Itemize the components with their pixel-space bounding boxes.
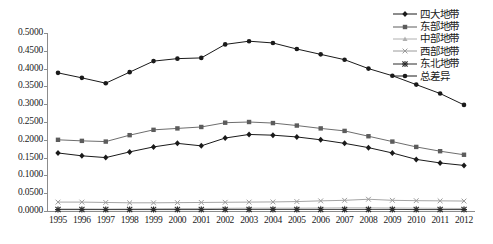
legend-label: 东部地带 (418, 21, 459, 32)
data-point-marker-circle (342, 57, 347, 62)
data-point-marker-diamond (103, 155, 108, 161)
data-point-marker-diamond (294, 134, 299, 140)
data-point-marker-star (342, 206, 348, 212)
legend-item-0[interactable]: 四大地带 (392, 8, 493, 20)
y-axis-tick-label: 0.2500 (18, 117, 43, 127)
y-axis-tick-mark (44, 211, 47, 212)
data-point-marker-diamond (246, 131, 251, 137)
data-point-marker-diamond (222, 135, 227, 141)
legend-item-1[interactable]: 东部地带 (392, 20, 493, 32)
data-point-marker-square (403, 24, 407, 28)
data-point-marker-square (462, 153, 466, 157)
legend-label: 西部地带 (418, 46, 459, 57)
data-point-marker-diamond (318, 137, 323, 143)
legend: 四大地带东部地带中部地带西部地带东北地带总差异 (392, 8, 493, 82)
data-point-marker-diamond (151, 144, 156, 150)
data-point-marker-diamond (199, 143, 204, 149)
data-point-marker-diamond (175, 140, 180, 146)
data-point-marker-square (151, 128, 155, 132)
data-point-marker-square (223, 121, 227, 125)
data-point-marker-star (318, 206, 324, 212)
x-axis-tick-label: 2000 (169, 215, 187, 225)
data-point-marker-circle (366, 66, 371, 71)
data-point-marker-diamond (461, 162, 466, 168)
data-point-marker-circle (175, 56, 180, 61)
data-point-marker-star (127, 207, 133, 213)
x-axis-tick-label: 1997 (97, 215, 115, 225)
data-point-marker-square (127, 133, 131, 137)
data-point-marker-star (437, 207, 443, 213)
data-point-marker-square (438, 149, 442, 153)
y-axis-tick-label: 0.3500 (18, 82, 43, 92)
x-axis-tick-label: 1998 (121, 215, 139, 225)
series-0 (55, 131, 466, 168)
data-point-marker-circle (414, 82, 419, 87)
data-point-marker-star (270, 206, 276, 212)
data-point-marker-diamond (79, 153, 84, 159)
data-point-marker-square (366, 134, 370, 138)
legend-label: 中部地带 (418, 33, 459, 44)
data-point-marker-star (246, 206, 252, 212)
legend-item-3[interactable]: 西部地带 (392, 45, 493, 57)
x-axis-tick-label: 2006 (312, 215, 330, 225)
x-axis-tick-label: 2008 (360, 215, 378, 225)
y-axis-tick-label: 0.0500 (18, 188, 43, 198)
x-axis-tick-label: 2010 (407, 215, 425, 225)
legend-item-4[interactable]: 东北地带 (392, 58, 493, 70)
y-axis-tick-label: 0.1000 (18, 171, 43, 181)
data-point-marker-square (342, 129, 346, 133)
data-point-marker-star (413, 207, 419, 213)
data-point-marker-square (199, 125, 203, 129)
data-point-marker-diamond (127, 149, 132, 155)
legend-marker-cross-icon (392, 45, 418, 57)
y-axis-tick-label: 0.5000 (18, 28, 43, 38)
data-point-marker-circle (151, 59, 156, 64)
x-axis-tick-label: 2012 (455, 215, 473, 225)
data-point-marker-circle (403, 74, 408, 79)
data-point-marker-square (247, 120, 251, 124)
data-point-marker-circle (247, 39, 252, 44)
data-point-marker-star (365, 206, 371, 212)
data-point-marker-star (461, 207, 467, 213)
data-point-marker-square (80, 139, 84, 143)
x-axis-tick-label: 2003 (240, 215, 258, 225)
data-point-marker-circle (80, 76, 85, 81)
data-point-marker-diamond (55, 150, 60, 156)
data-point-marker-diamond (414, 156, 419, 162)
x-axis-tick-label: 2002 (216, 215, 234, 225)
legend-label: 东北地带 (418, 58, 459, 69)
data-point-marker-circle (462, 103, 467, 108)
data-point-marker-star (79, 207, 85, 213)
data-point-marker-square (414, 145, 418, 149)
legend-item-2[interactable]: 中部地带 (392, 33, 493, 45)
legend-label: 四大地带 (418, 9, 459, 20)
data-point-marker-diamond (390, 150, 395, 156)
x-axis-tick-label: 1999 (145, 215, 163, 225)
data-point-marker-star (103, 207, 109, 213)
data-point-marker-circle (438, 91, 443, 96)
y-axis-tick-label: 0.4500 (18, 46, 43, 56)
data-point-marker-star (294, 206, 300, 212)
data-point-marker-circle (103, 81, 108, 86)
y-axis-tick-label: 0.4000 (18, 64, 43, 74)
series-3 (56, 197, 467, 205)
data-point-marker-circle (318, 52, 323, 57)
data-point-marker-star (222, 206, 228, 212)
series-2 (56, 205, 467, 211)
data-point-marker-diamond (437, 160, 442, 166)
legend-marker-triangle-icon (392, 33, 418, 45)
data-point-marker-square (319, 126, 323, 130)
x-axis-tick-label: 2005 (288, 215, 306, 225)
legend-item-5[interactable]: 总差异 (392, 70, 493, 82)
series-1 (56, 120, 466, 157)
data-point-marker-star (151, 207, 157, 213)
data-point-marker-square (390, 139, 394, 143)
data-point-marker-square (295, 123, 299, 127)
data-point-marker-diamond (402, 11, 407, 17)
data-point-marker-circle (295, 47, 300, 52)
y-axis-tick-label: 0.0000 (18, 206, 43, 216)
x-axis-line (47, 211, 475, 212)
data-point-marker-square (56, 138, 60, 142)
data-point-marker-star (55, 207, 61, 213)
data-point-marker-circle (56, 71, 61, 76)
